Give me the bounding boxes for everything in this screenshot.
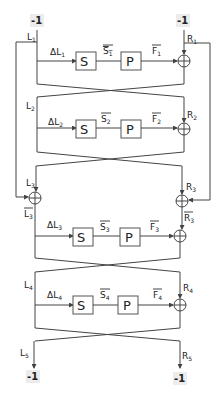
svg-text:S3: S3	[100, 222, 110, 233]
svg-text:-1: -1	[174, 373, 185, 384]
svg-text:S: S	[80, 122, 88, 137]
input-right: -1	[176, 14, 190, 27]
svg-text:S: S	[77, 298, 85, 313]
svg-text:P: P	[126, 122, 134, 137]
xor-icon	[178, 123, 190, 135]
svg-text:P: P	[123, 298, 131, 313]
svg-text:ΔL2: ΔL2	[48, 117, 63, 128]
svg-text:L2: L2	[26, 101, 35, 112]
svg-text:L3: L3	[26, 178, 35, 189]
xor-icon	[176, 195, 188, 207]
svg-text:L3: L3	[24, 209, 33, 220]
svg-text:-1: -1	[31, 15, 42, 26]
svg-text:R3: R3	[186, 182, 196, 193]
round-1: S P L1 R1 ΔL1 S1 F1	[16, 30, 210, 200]
svg-text:F1: F1	[152, 46, 161, 57]
svg-text:ΔL1: ΔL1	[50, 47, 65, 58]
svg-text:S: S	[80, 54, 88, 69]
input-left: -1	[30, 14, 44, 27]
svg-text:P: P	[125, 230, 133, 245]
svg-text:ΔL4: ΔL4	[47, 290, 62, 301]
svg-text:S2: S2	[101, 114, 111, 125]
whitening-stage: L3 R3 L3 R3	[24, 166, 196, 224]
svg-text:R3: R3	[184, 213, 194, 224]
outputs: L5 R5 -1 -1	[20, 341, 192, 385]
round-4: S P L4 R4 ΔL4 S4 F4	[24, 272, 193, 341]
round-3: S P ΔL3 S3 F3	[35, 204, 186, 272]
svg-text:P: P	[126, 54, 134, 69]
svg-text:R2: R2	[187, 110, 197, 121]
svg-text:-1: -1	[177, 15, 188, 26]
svg-text:S4: S4	[100, 290, 110, 301]
svg-text:-1: -1	[27, 371, 38, 382]
xor-icon	[174, 299, 186, 311]
svg-text:F4: F4	[153, 290, 162, 301]
round-2: S P L2 R2 ΔL2 S2 F2	[26, 97, 197, 166]
svg-text:F2: F2	[152, 114, 161, 125]
svg-text:R4: R4	[183, 283, 193, 294]
xor-icon	[178, 55, 190, 67]
cipher-diagram: -1 -1 S P L1 R1 ΔL1 S1 F1	[0, 0, 224, 399]
svg-text:S1: S1	[103, 46, 113, 57]
svg-text:R1: R1	[187, 34, 197, 45]
svg-text:R5: R5	[182, 351, 192, 362]
output-right: -1	[173, 372, 187, 385]
svg-text:L4: L4	[24, 280, 33, 291]
svg-text:F3: F3	[150, 222, 159, 233]
xor-icon	[29, 192, 41, 204]
svg-text:S: S	[77, 230, 85, 245]
svg-text:ΔL3: ΔL3	[47, 220, 62, 231]
svg-text:L1: L1	[27, 32, 36, 43]
xor-icon	[174, 230, 186, 242]
output-left: -1	[26, 370, 40, 383]
svg-text:L5: L5	[20, 348, 29, 359]
